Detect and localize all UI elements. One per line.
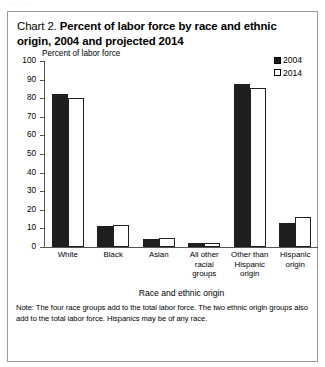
chart-title: Chart 2. Percent of labor force by race … <box>17 19 309 48</box>
y-tick-50: 50 <box>27 150 36 158</box>
bar-2014 <box>295 217 311 247</box>
x-category-label: Hispanicorigin <box>273 250 319 279</box>
x-axis-line <box>44 247 318 248</box>
plot-area: Percent of labor force 2004 2014 1009080… <box>16 50 309 264</box>
y-tick-70: 70 <box>27 113 36 121</box>
y-axis-label: Percent of labor force <box>42 49 120 58</box>
bar-2004 <box>143 239 159 247</box>
bar-group <box>227 61 273 247</box>
y-tick-30: 30 <box>27 187 36 195</box>
bar-2014 <box>159 238 175 247</box>
bar-2004 <box>97 226 113 247</box>
x-category-label: White <box>45 250 91 279</box>
x-axis-label: Race and ethnic origin <box>45 288 318 298</box>
chart-figure: Chart 2. Percent of labor force by race … <box>7 11 318 362</box>
x-category-label: Black <box>91 250 137 279</box>
bar-2014 <box>113 225 129 247</box>
y-tick-10: 10 <box>27 224 36 232</box>
bar-2004 <box>279 223 295 247</box>
y-axis-ticks: 1009080706050403020100 <box>16 61 40 247</box>
x-category-label: Asian <box>136 250 182 279</box>
y-tick-60: 60 <box>27 131 36 139</box>
bar-2014 <box>204 243 220 247</box>
chart-note: Note: The four race groups add to the to… <box>16 303 309 324</box>
y-tick-100: 100 <box>22 57 36 65</box>
bar-group <box>136 61 182 247</box>
x-category-label: All otherracialgroups <box>182 250 228 279</box>
bar-group <box>91 61 137 247</box>
y-tick-80: 80 <box>27 94 36 102</box>
top-page-bleed-text: · · · · · <box>8 0 317 8</box>
bar-2004 <box>52 94 68 247</box>
bar-2014 <box>250 88 266 247</box>
y-tick-90: 90 <box>27 76 36 84</box>
bar-group <box>45 61 91 247</box>
bar-group <box>182 61 228 247</box>
bar-group <box>273 61 319 247</box>
chart-title-number: Chart 2. <box>17 20 57 32</box>
bar-2004 <box>188 243 204 247</box>
y-tick-0: 0 <box>31 243 36 251</box>
y-tick-20: 20 <box>27 206 36 214</box>
y-tick-40: 40 <box>27 169 36 177</box>
x-axis-category-labels: WhiteBlackAsianAll otherracialgroupsOthe… <box>45 250 318 279</box>
bar-2014 <box>68 98 84 247</box>
bar-groups <box>45 61 318 247</box>
x-category-label: Other thanHispanicorigin <box>227 250 273 279</box>
bar-2004 <box>234 84 250 247</box>
